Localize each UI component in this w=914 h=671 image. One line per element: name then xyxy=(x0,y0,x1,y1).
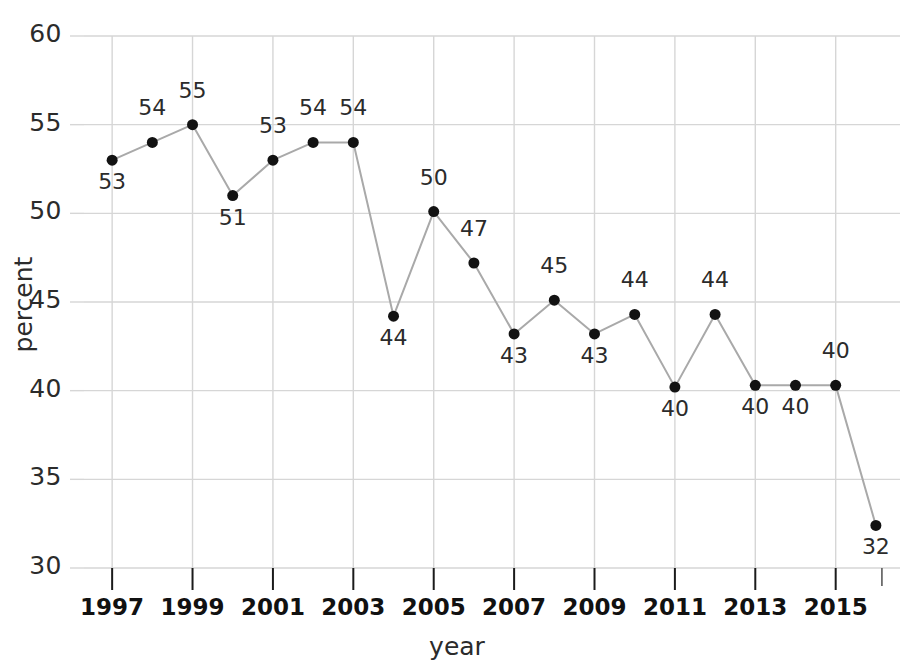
series-line xyxy=(112,125,876,526)
x-tick-label: 2015 xyxy=(791,594,881,620)
data-point-marker xyxy=(629,309,640,320)
data-point-marker xyxy=(428,206,439,217)
data-point-value-label: 50 xyxy=(399,165,469,190)
data-point-value-label: 32 xyxy=(841,534,911,559)
y-tick-label: 40 xyxy=(0,374,62,403)
data-point-marker xyxy=(147,137,158,148)
x-tick-label: 2007 xyxy=(469,594,559,620)
data-point-marker xyxy=(468,257,479,268)
horizontal-gridlines xyxy=(84,36,900,568)
data-point-value-label: 53 xyxy=(77,169,147,194)
data-point-value-label: 40 xyxy=(640,396,710,421)
y-tick-label: 50 xyxy=(0,196,62,225)
data-point-marker xyxy=(669,382,680,393)
data-point-value-label: 47 xyxy=(439,216,509,241)
data-point-marker xyxy=(870,520,881,531)
data-point-value-label: 43 xyxy=(560,343,630,368)
y-axis-ticks xyxy=(70,36,84,568)
data-point-value-label: 40 xyxy=(801,338,871,363)
y-axis-title: percent xyxy=(9,245,38,365)
data-point-marker xyxy=(830,380,841,391)
series-markers xyxy=(107,119,882,531)
data-point-value-label: 44 xyxy=(680,267,750,292)
data-point-value-label: 45 xyxy=(519,253,589,278)
data-point-value-label: 43 xyxy=(479,343,549,368)
data-point-marker xyxy=(589,328,600,339)
x-tick-label: 2001 xyxy=(228,594,318,620)
x-tick-label: 2005 xyxy=(389,594,479,620)
line-chart: 30354045505560 1997199920012003200520072… xyxy=(0,0,914,671)
data-point-marker xyxy=(549,295,560,306)
x-tick-label: 2003 xyxy=(308,594,398,620)
data-point-marker xyxy=(227,190,238,201)
data-point-marker xyxy=(509,328,520,339)
data-point-marker xyxy=(308,137,319,148)
data-point-marker xyxy=(107,155,118,166)
data-point-marker xyxy=(348,137,359,148)
y-tick-label: 60 xyxy=(0,19,62,48)
x-tick-label: 1997 xyxy=(67,594,157,620)
data-point-marker xyxy=(790,380,801,391)
x-tick-label: 2009 xyxy=(550,594,640,620)
x-axis-ticks xyxy=(112,568,882,590)
y-tick-label: 35 xyxy=(0,462,62,491)
data-point-value-label: 44 xyxy=(359,325,429,350)
data-point-marker xyxy=(750,380,761,391)
data-point-value-label: 55 xyxy=(158,78,228,103)
y-tick-label: 55 xyxy=(0,108,62,137)
x-tick-label: 2013 xyxy=(710,594,800,620)
y-tick-label: 30 xyxy=(0,551,62,580)
data-point-value-label: 51 xyxy=(198,205,268,230)
x-tick-label: 2011 xyxy=(630,594,720,620)
x-tick-label: 1999 xyxy=(148,594,238,620)
data-point-value-label: 40 xyxy=(760,394,830,419)
data-point-marker xyxy=(187,119,198,130)
data-point-marker xyxy=(388,311,399,322)
data-point-marker xyxy=(710,309,721,320)
x-axis-title: year xyxy=(0,632,914,661)
data-point-marker xyxy=(267,155,278,166)
data-point-value-label: 54 xyxy=(318,95,388,120)
data-point-value-label: 44 xyxy=(600,267,670,292)
